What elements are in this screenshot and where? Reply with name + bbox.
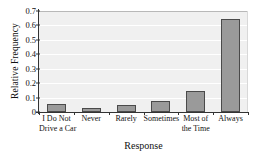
x-tick-label-line: Sometimes [144,114,179,124]
x-axis-line [36,112,249,113]
x-tick-label-line: Never [74,114,109,124]
x-tick-label: Never [74,114,109,124]
y-tick-mark [36,83,40,84]
x-tick-label-line: the Time [178,124,213,134]
y-tick-label: 0.3 [14,64,36,73]
x-tick-label-line: I Do Not [39,114,74,124]
x-axis-tick-labels: I Do NotDrive a CarNeverRarelySometimesM… [39,114,248,138]
y-tick-mark [36,39,40,40]
bar [82,108,101,112]
x-tick-label: Sometimes [144,114,179,124]
bar-chart-figure: Relative Frequency 00.10.20.30.40.50.60.… [0,0,253,161]
x-tick-label: Always [213,114,248,124]
bar [186,91,205,112]
x-tick-mark [39,112,40,115]
y-axis-tick-labels: 00.10.20.30.40.50.60.7 [14,11,36,112]
x-tick-label-line: Rarely [109,114,144,124]
y-tick-mark [36,54,40,55]
bar [221,19,240,112]
bar [151,101,170,112]
x-tick-label-line: Drive a Car [39,124,74,134]
x-tick-mark [178,112,179,115]
x-tick-mark [109,112,110,115]
y-tick-label: 0.1 [14,93,36,102]
plot-area [39,11,248,112]
x-tick-mark [213,112,214,115]
y-tick-mark [36,97,40,98]
bar [47,104,66,112]
y-tick-label: 0.6 [14,21,36,30]
y-tick-label: 0.5 [14,36,36,45]
y-tick-mark [36,11,40,12]
y-tick-label: 0.7 [14,7,36,16]
y-tick-label: 0.4 [14,50,36,59]
y-tick-mark [36,25,40,26]
plot-right-border [247,11,248,112]
bar-series [39,11,248,112]
x-tick-label: I Do NotDrive a Car [39,114,74,133]
x-tick-label-line: Always [213,114,248,124]
bar [117,105,136,113]
x-tick-label-line: Most of [178,114,213,124]
plot-top-border [39,11,248,12]
x-tick-mark [248,112,249,115]
x-tick-label: Most ofthe Time [178,114,213,133]
y-tick-label: 0 [14,108,36,117]
y-tick-label: 0.2 [14,79,36,88]
x-tick-label: Rarely [109,114,144,124]
x-axis-title: Response [39,140,248,151]
x-tick-mark [144,112,145,115]
y-tick-mark [36,68,40,69]
x-tick-mark [74,112,75,115]
